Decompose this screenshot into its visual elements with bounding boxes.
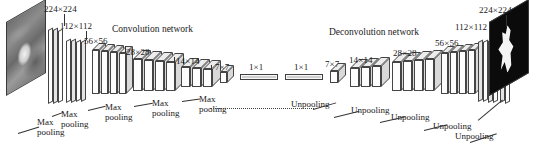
dim-label-dec-56: 56×56: [435, 38, 459, 48]
convolution-network-title: Convolution network: [112, 24, 193, 34]
deconv-block-14-a: [350, 68, 359, 87]
conv-block-14-b: [192, 68, 201, 87]
conv-block-14-c: [203, 69, 212, 87]
input-image: [6, 0, 46, 96]
dim-label-dec-112: 112×112: [455, 22, 487, 32]
conv-slab-224-c: [58, 28, 63, 103]
dotted-connector-center: [210, 108, 314, 109]
dim-label-enc-56: 56×56: [84, 36, 108, 46]
deconv-block-14-c: [372, 66, 381, 87]
max-pooling-label-5-line2: pooling: [199, 105, 227, 115]
segmentation-mask: [498, 20, 515, 78]
conv-block-56-a: [92, 50, 99, 94]
max-pooling-label-4-line2: pooling: [152, 109, 180, 119]
leader-enc-14: [211, 65, 212, 70]
connector-maxpool-4: [134, 103, 153, 107]
dim-label-enc-112: 112×112: [60, 21, 92, 31]
connector-maxpool-3: [88, 106, 106, 111]
dim-label-dec-14: 14×14: [349, 55, 373, 65]
bottleneck-bar-1x1-second: [285, 74, 323, 80]
conv-slab-112-d: [81, 39, 86, 102]
max-pooling-label-2: Max pooling: [61, 110, 89, 129]
conv-block-28-a: [133, 59, 142, 91]
leader-dec-224: [506, 15, 507, 27]
max-pooling-label-5: Max pooling: [199, 95, 227, 114]
connector-output-image: [478, 100, 503, 121]
dim-label-enc-224: 224×224: [44, 4, 77, 14]
max-pooling-label-3-line2: pooling: [105, 113, 133, 123]
connector-maxpool-5: [182, 98, 200, 101]
deconv-block-28-a: [392, 62, 401, 91]
dim-label-enc-28: 28×28: [126, 47, 150, 57]
conv-block-56-b: [101, 51, 108, 94]
deconv-block-28-c: [414, 60, 423, 91]
dim-label-bottleneck-1: 1×1: [249, 62, 263, 72]
deconv-block-7: [330, 71, 338, 83]
dim-label-bottleneck-2: 1×1: [294, 62, 308, 72]
dim-label-dec-224: 224×224: [479, 5, 512, 15]
deconv-block-28-d: [425, 59, 434, 91]
max-pooling-label-4: Max pooling: [152, 99, 180, 118]
conv-block-28-b: [144, 60, 153, 91]
dim-label-dec-7: 7×7: [325, 59, 339, 69]
connector-maxpool-1: [18, 127, 39, 134]
deconvolution-network-title: Deconvolution network: [329, 27, 419, 37]
conv-block-56-d: [119, 53, 126, 94]
deconv-block-56-a: [441, 53, 448, 94]
max-pooling-label-2-line2: pooling: [61, 120, 89, 130]
deconv-block-14-b: [361, 67, 370, 87]
bottleneck-bar-1x1-first: [240, 74, 278, 80]
conv-block-14-a: [181, 67, 190, 87]
deconv-block-56-c: [459, 51, 466, 94]
dim-label-dec-28: 28×28: [393, 48, 417, 58]
deconv-block-28-b: [403, 61, 412, 91]
max-pooling-label-3: Max pooling: [105, 103, 133, 122]
deconv-block-56-d: [468, 50, 475, 94]
deconv-block-56-b: [450, 52, 457, 94]
conv-block-7: [220, 72, 227, 83]
leader-enc-28: [174, 57, 175, 63]
network-architecture-figure: Convolution network Deconvolution networ…: [0, 0, 535, 156]
conv-block-28-d: [166, 62, 175, 91]
dim-label-enc-7: 7×7: [215, 62, 229, 72]
conv-block-56-c: [110, 52, 117, 94]
conv-block-28-c: [155, 61, 164, 91]
dim-label-enc-14: 14×14: [176, 56, 200, 66]
